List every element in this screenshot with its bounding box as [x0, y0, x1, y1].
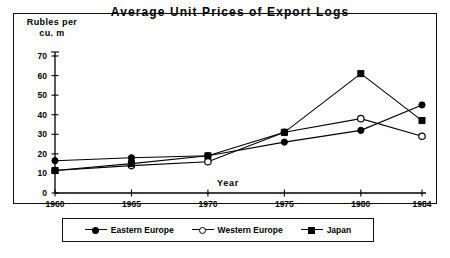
series-marker-japan [52, 167, 58, 173]
y-tick-label: 30 [38, 129, 48, 139]
x-tick-label: 1965 [122, 199, 141, 209]
series-marker-western-europe [419, 133, 425, 139]
y-tick-label: 0 [42, 188, 47, 198]
series-line-eastern-europe [55, 105, 422, 161]
series-line-japan [55, 74, 422, 171]
series-marker-japan [281, 129, 287, 135]
legend-marker-filled-circle-icon [85, 225, 107, 235]
legend-label: Eastern Europe [111, 225, 174, 235]
y-tick-label: 50 [38, 90, 48, 100]
legend: Eastern Europe Western Europe Japan [62, 218, 374, 242]
x-tick-label: 1970 [198, 199, 217, 209]
series-marker-japan [205, 153, 211, 159]
y-tick-label: 70 [38, 51, 48, 61]
y-tick-label: 10 [38, 168, 48, 178]
legend-label: Western Europe [218, 225, 283, 235]
x-tick-label: 1960 [46, 199, 65, 209]
legend-label: Japan [327, 225, 352, 235]
series-marker-eastern-europe [358, 127, 364, 133]
legend-item-western-europe: Western Europe [192, 225, 283, 235]
series-marker-japan [419, 118, 425, 124]
y-tick-label: 20 [38, 149, 48, 159]
chart-figure: Average Unit Prices of Export Logs Ruble… [0, 0, 450, 258]
series-marker-western-europe [205, 158, 211, 164]
x-tick-label: 1980 [351, 199, 370, 209]
y-tick-label: 60 [38, 71, 48, 81]
series-marker-eastern-europe [52, 158, 58, 164]
x-axis-inline-label: Year [217, 178, 239, 188]
series-marker-western-europe [358, 115, 364, 121]
series-line-western-europe [55, 119, 422, 171]
series-marker-japan [128, 161, 134, 167]
series-marker-eastern-europe [419, 102, 425, 108]
series-marker-japan [358, 71, 364, 77]
y-tick-label: 40 [38, 110, 48, 120]
legend-item-japan: Japan [301, 225, 352, 235]
x-tick-label: 1975 [275, 199, 294, 209]
legend-marker-filled-square-icon [301, 225, 323, 235]
legend-marker-open-circle-icon [192, 225, 214, 235]
series-marker-eastern-europe [281, 139, 287, 145]
x-tick-label: 1984 [413, 199, 432, 209]
series-marker-eastern-europe [128, 155, 134, 161]
legend-item-eastern-europe: Eastern Europe [85, 225, 174, 235]
